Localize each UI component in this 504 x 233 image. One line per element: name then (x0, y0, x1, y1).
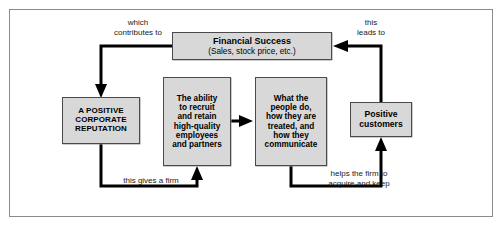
node-ability-recruit-line-6: and partners (172, 140, 222, 149)
edge-label-helps-the-firm-line-2: acquire and keep (311, 179, 407, 189)
connector-customers-to-financial (333, 40, 381, 102)
node-ability-recruit[interactable]: The ability to recruit and retain high-q… (163, 77, 231, 166)
edge-label-helps-the-firm-line-1: helps the firm to (311, 169, 407, 179)
node-people-behavior-line-2: people do, (271, 103, 312, 112)
node-people-behavior-line-3: how they are (266, 112, 316, 121)
node-people-behavior-line-6: communicate (265, 140, 318, 149)
edge-label-this-leads-to-line-1: this (338, 18, 404, 28)
connector-financial-to-reputation (95, 46, 172, 98)
edge-label-which-contributes-to-line-2: contributes to (95, 28, 181, 38)
node-people-behavior[interactable]: What the people do, how they are treated… (255, 77, 327, 166)
node-corporate-reputation-line-3: REPUTATION (75, 125, 127, 134)
node-corporate-reputation[interactable]: A POSITIVE CORPORATE REPUTATION (62, 97, 140, 144)
edge-label-this-gives-a-firm-line-1: this gives a firm (108, 176, 194, 186)
edge-label-helps-the-firm: helps the firm to acquire and keep (311, 169, 407, 188)
edge-label-which-contributes-to: which contributes to (95, 18, 181, 37)
node-positive-customers-line-2: customers (359, 120, 402, 130)
node-ability-recruit-line-1: The ability (177, 94, 218, 103)
edge-label-which-contributes-to-line-1: which (95, 18, 181, 28)
node-ability-recruit-line-4: high-quality (174, 122, 220, 131)
node-ability-recruit-line-5: employees (176, 131, 218, 140)
node-people-behavior-line-1: What the (274, 94, 309, 103)
edge-label-this-leads-to: this leads to (338, 18, 404, 37)
node-ability-recruit-line-2: to recruit (179, 103, 215, 112)
node-people-behavior-line-4: treated, and (268, 122, 314, 131)
node-positive-customers[interactable]: Positive customers (350, 102, 412, 137)
node-financial-success[interactable]: Financial Success (Sales, stock price, e… (172, 32, 332, 60)
node-ability-recruit-line-3: and retain (177, 112, 216, 121)
node-financial-success-title: Financial Success (213, 36, 291, 46)
connector-ability-to-people (231, 115, 253, 127)
node-financial-success-subtitle: (Sales, stock price, etc.) (208, 47, 295, 56)
diagram-page: Financial Success (Sales, stock price, e… (0, 0, 504, 233)
edge-label-this-leads-to-line-2: leads to (338, 28, 404, 38)
node-people-behavior-line-5: how they (273, 131, 308, 140)
edge-label-this-gives-a-firm: this gives a firm (108, 176, 194, 186)
